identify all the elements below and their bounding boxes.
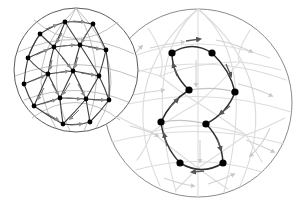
vertex-dot-icon: [78, 43, 83, 48]
vertex-dot-icon: [168, 49, 175, 56]
vertex-dot-icon: [88, 120, 93, 125]
figure-root: [0, 0, 305, 213]
small-sphere: [14, 8, 139, 133]
vertex-dot-icon: [38, 32, 43, 37]
vertex-dot-icon: [22, 82, 27, 87]
vertex-dot-icon: [84, 97, 89, 102]
vertex-dot-icon: [185, 86, 192, 93]
vertex-dot-icon: [176, 159, 183, 166]
vertex-dot-icon: [32, 104, 37, 109]
vertex-dot-icon: [157, 118, 164, 125]
vertex-dot-icon: [208, 49, 215, 56]
vertex-dot-icon: [63, 20, 68, 25]
vertex-dot-icon: [97, 74, 102, 79]
vertex-dot-icon: [231, 88, 238, 95]
vertex-dot-icon: [202, 120, 209, 127]
vertex-dot-icon: [71, 69, 76, 74]
vertex-dot-icon: [219, 159, 226, 166]
vertex-dot-icon: [26, 56, 31, 61]
vertex-dot-icon: [46, 72, 51, 77]
vertex-dot-icon: [107, 98, 112, 103]
vertex-dot-icon: [58, 96, 63, 101]
vertex-dot-icon: [61, 122, 66, 127]
vertex-dot-icon: [104, 48, 109, 53]
vertex-dot-icon: [91, 22, 96, 27]
sphere-graph-figure: [0, 0, 305, 213]
vertex-dot-icon: [52, 45, 57, 50]
